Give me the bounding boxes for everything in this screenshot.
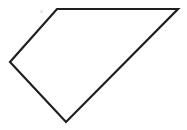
figure-background — [0, 0, 187, 130]
figure-canvas — [0, 0, 187, 130]
gray-speck-artifact — [40, 10, 43, 13]
quadrilateral-figure — [0, 0, 187, 130]
